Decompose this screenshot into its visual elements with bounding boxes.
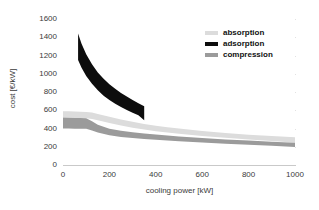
x-tick-label: 200 bbox=[89, 171, 129, 179]
chart-figure: 02004006008001000120014001600 0200400600… bbox=[0, 0, 319, 210]
legend-item-absorption: absorption bbox=[205, 27, 311, 38]
y-tick-label: 200 bbox=[23, 143, 57, 151]
legend-swatch-icon bbox=[205, 31, 218, 35]
x-tick-label: 800 bbox=[229, 171, 269, 179]
x-tick-label: 0 bbox=[43, 171, 83, 179]
legend-swatch-icon bbox=[205, 53, 218, 57]
y-tick-label: 400 bbox=[23, 125, 57, 133]
y-tick-label: 1200 bbox=[23, 52, 57, 60]
legend-item-adsorption: adsorption bbox=[205, 38, 311, 49]
chart-legend: absorptionadsorptioncompression bbox=[205, 27, 311, 60]
legend-item-label: adsorption bbox=[223, 39, 264, 48]
y-tick-label: 0 bbox=[23, 161, 57, 169]
x-axis-title: cooling power [kW] bbox=[63, 186, 296, 195]
legend-swatch-icon bbox=[205, 42, 218, 46]
y-tick-label: 600 bbox=[23, 106, 57, 114]
x-tick-label: 400 bbox=[136, 171, 176, 179]
y-tick-label: 800 bbox=[23, 88, 57, 96]
legend-item-compression: compression bbox=[205, 49, 311, 60]
x-tick-label: 1000 bbox=[275, 171, 315, 179]
series-band-adsorption bbox=[78, 34, 144, 121]
y-tick-label: 1000 bbox=[23, 70, 57, 78]
y-axis-title: cost [€/kW] bbox=[8, 41, 17, 137]
y-tick-label: 1400 bbox=[23, 33, 57, 41]
x-tick-label: 600 bbox=[182, 171, 222, 179]
legend-item-label: absorption bbox=[223, 28, 264, 37]
x-axis-line bbox=[63, 165, 296, 166]
legend-item-label: compression bbox=[223, 50, 273, 59]
y-tick-label: 1600 bbox=[23, 15, 57, 23]
x-axis-ticks: 02004006008001000 bbox=[0, 171, 319, 183]
